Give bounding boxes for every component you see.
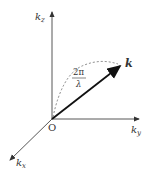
kz-label: kz (35, 11, 45, 24)
kx-axis (10, 119, 52, 160)
wave-vector-diagram: kz ky kx O k 2π λ (0, 0, 153, 176)
dashed-arc (53, 61, 118, 117)
origin-label: O (48, 122, 56, 133)
fraction-numerator: 2π (73, 67, 84, 77)
k-vector-label: k (125, 57, 133, 70)
kx-label: kx (16, 157, 26, 170)
fraction-denominator: λ (75, 79, 81, 89)
k-vector (52, 66, 120, 119)
ky-label: ky (131, 124, 142, 137)
